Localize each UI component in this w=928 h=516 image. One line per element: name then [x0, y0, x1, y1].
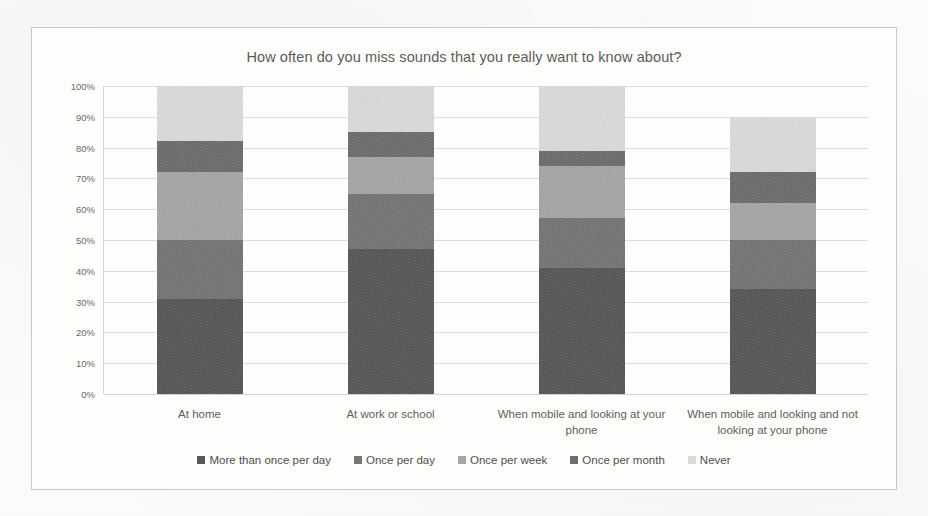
- legend-label: Once per month: [582, 454, 664, 466]
- bar-segment[interactable]: [539, 86, 625, 151]
- segment-texture: [539, 166, 625, 218]
- legend-swatch-icon: [570, 456, 578, 464]
- stacked-bar[interactable]: [539, 86, 625, 394]
- bar-segment[interactable]: [539, 268, 625, 394]
- segment-texture: [157, 240, 243, 299]
- legend-item[interactable]: Once per month: [570, 454, 664, 466]
- x-axis-category-label: At home: [104, 406, 295, 422]
- segment-texture: [539, 268, 625, 394]
- bar-segment[interactable]: [539, 218, 625, 267]
- legend-label: Once per day: [366, 454, 435, 466]
- segment-texture: [348, 194, 434, 249]
- bar-segment[interactable]: [730, 117, 816, 172]
- y-axis-tick-label: 90%: [76, 111, 95, 122]
- y-axis-tick-label: 40%: [76, 265, 95, 276]
- y-axis-tick-label: 100%: [71, 81, 95, 92]
- legend-item[interactable]: Once per week: [458, 454, 547, 466]
- legend-label: Never: [700, 454, 731, 466]
- segment-texture: [348, 157, 434, 194]
- bar-segment[interactable]: [157, 86, 243, 141]
- segment-texture: [157, 141, 243, 172]
- legend-swatch-icon: [458, 456, 466, 464]
- bar-segment[interactable]: [730, 172, 816, 203]
- legend-swatch-icon: [197, 456, 205, 464]
- segment-texture: [730, 203, 816, 240]
- bar-segment[interactable]: [730, 240, 816, 289]
- segment-texture: [157, 86, 243, 141]
- segment-texture: [157, 172, 243, 240]
- bar-segment[interactable]: [157, 141, 243, 172]
- bar-group[interactable]: [677, 86, 868, 394]
- y-axis-tick-label: 50%: [76, 235, 95, 246]
- chart-title: How often do you miss sounds that you re…: [32, 49, 896, 65]
- legend-label: More than once per day: [209, 454, 330, 466]
- y-axis-tick-label: 30%: [76, 296, 95, 307]
- bar-segment[interactable]: [157, 172, 243, 240]
- y-axis-tick-label: 80%: [76, 142, 95, 153]
- bar-segment[interactable]: [348, 132, 434, 157]
- bar-segment[interactable]: [539, 151, 625, 166]
- segment-texture: [539, 218, 625, 267]
- segment-texture: [348, 86, 434, 132]
- bar-segment[interactable]: [157, 299, 243, 394]
- segment-texture: [348, 249, 434, 394]
- segment-texture: [730, 289, 816, 394]
- bar-segment[interactable]: [348, 157, 434, 194]
- x-axis-category-label: At work or school: [295, 406, 486, 422]
- bar-group[interactable]: [295, 86, 486, 394]
- segment-texture: [348, 132, 434, 157]
- legend-label: Once per week: [470, 454, 547, 466]
- stacked-bar[interactable]: [157, 86, 243, 394]
- stacked-bar[interactable]: [348, 86, 434, 394]
- bar-segment[interactable]: [348, 194, 434, 249]
- legend-item[interactable]: More than once per day: [197, 454, 330, 466]
- segment-texture: [730, 172, 816, 203]
- stacked-bar[interactable]: [730, 86, 816, 394]
- bar-segment[interactable]: [730, 203, 816, 240]
- gridline: [104, 394, 868, 395]
- bar-group[interactable]: [486, 86, 677, 394]
- legend-item[interactable]: Once per day: [354, 454, 435, 466]
- segment-texture: [730, 240, 816, 289]
- scanned-page-background: How often do you miss sounds that you re…: [0, 0, 928, 516]
- x-axis-category-label: When mobile and looking at your phone: [486, 406, 677, 438]
- chart-legend: More than once per dayOnce per dayOnce p…: [32, 454, 896, 466]
- plot-area: 100%90%80%70%60%50%40%30%20%10%0% At hom…: [104, 86, 868, 394]
- legend-item[interactable]: Never: [688, 454, 731, 466]
- legend-swatch-icon: [688, 456, 696, 464]
- bar-segment[interactable]: [157, 240, 243, 299]
- bar-group[interactable]: [104, 86, 295, 394]
- segment-texture: [539, 151, 625, 166]
- x-axis-category-label: When mobile and looking and not looking …: [677, 406, 868, 438]
- bar-segment[interactable]: [730, 289, 816, 394]
- segment-texture: [730, 117, 816, 172]
- chart-container: How often do you miss sounds that you re…: [31, 27, 897, 490]
- bar-segment[interactable]: [539, 166, 625, 218]
- bar-segment[interactable]: [348, 86, 434, 132]
- y-axis-tick-label: 70%: [76, 173, 95, 184]
- y-axis-tick-label: 60%: [76, 204, 95, 215]
- segment-texture: [539, 86, 625, 151]
- y-axis-tick-label: 20%: [76, 327, 95, 338]
- y-axis-tick-label: 0%: [81, 389, 95, 400]
- legend-swatch-icon: [354, 456, 362, 464]
- y-axis-tick-label: 10%: [76, 358, 95, 369]
- segment-texture: [157, 299, 243, 394]
- bar-segment[interactable]: [348, 249, 434, 394]
